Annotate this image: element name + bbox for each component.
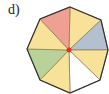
octagon-diagram [0, 0, 109, 94]
center-dot [67, 48, 72, 53]
